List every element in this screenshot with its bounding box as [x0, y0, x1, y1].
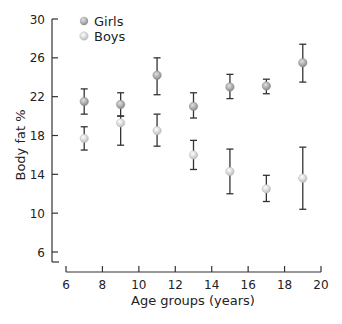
series-layer [80, 44, 307, 209]
y-tick-label: 14 [30, 168, 45, 182]
x-tick-label: 18 [277, 278, 292, 292]
x-axis: 68101214161820 [62, 266, 328, 292]
y-tick-label: 26 [30, 51, 45, 65]
y-tick-label: 30 [30, 13, 45, 27]
series-girls [80, 44, 307, 118]
data-point [189, 102, 197, 110]
chart: 6101418222630 68101214161820 Girls Boys … [0, 0, 342, 324]
data-point [299, 58, 307, 66]
y-axis: 6101418222630 [30, 13, 59, 263]
data-point [262, 185, 270, 193]
series-boys [80, 114, 307, 209]
legend-boys-label: Boys [94, 29, 126, 44]
x-tick-label: 16 [241, 278, 256, 292]
legend-girls-label: Girls [94, 14, 124, 29]
y-tick-label: 10 [30, 207, 45, 221]
y-tick-label: 6 [37, 246, 45, 260]
data-point [226, 83, 234, 91]
legend-boys-marker-icon [80, 32, 88, 40]
data-point [80, 97, 88, 105]
data-point [153, 126, 161, 134]
data-point [226, 167, 234, 175]
x-tick-label: 14 [204, 278, 219, 292]
x-axis-label: Age groups (years) [131, 293, 255, 308]
data-point [116, 119, 124, 127]
data-point [299, 174, 307, 182]
y-tick-label: 18 [30, 129, 45, 143]
data-point [153, 71, 161, 79]
data-point [116, 100, 124, 108]
x-tick-label: 20 [313, 278, 328, 292]
y-axis-label: Body fat % [13, 109, 28, 180]
data-point [189, 151, 197, 159]
data-point [262, 82, 270, 90]
x-tick-label: 8 [99, 278, 107, 292]
legend-girls-marker-icon [80, 17, 88, 25]
x-tick-label: 6 [62, 278, 70, 292]
x-tick-label: 10 [131, 278, 146, 292]
x-tick-label: 12 [168, 278, 183, 292]
data-point [80, 134, 88, 142]
y-tick-label: 22 [30, 90, 45, 104]
legend: Girls Boys [80, 14, 126, 44]
